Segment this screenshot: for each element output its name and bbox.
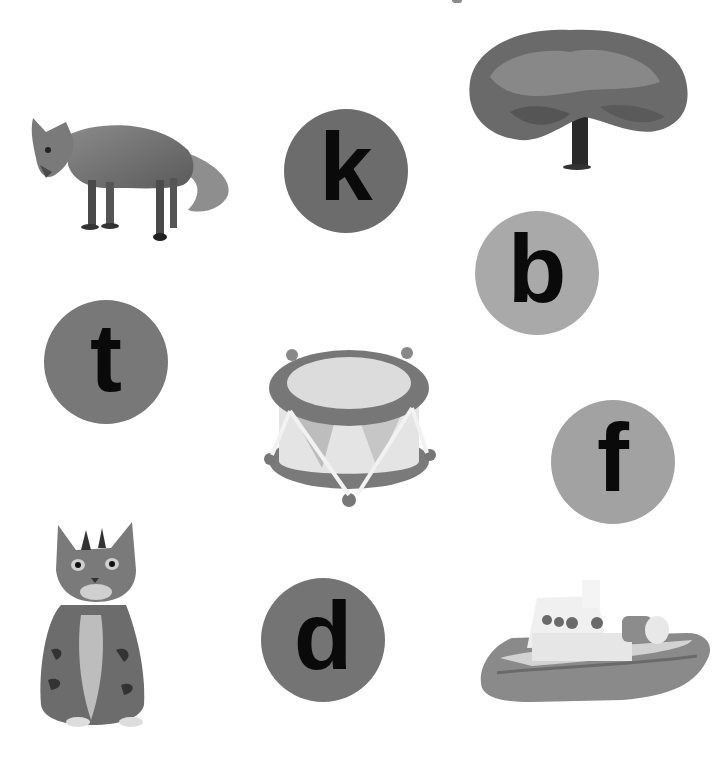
letter-d: d (294, 588, 353, 684)
letter-f: f (597, 410, 629, 506)
letter-circle-f[interactable]: f (551, 400, 675, 524)
boat-icon[interactable] (472, 578, 717, 708)
tree-icon[interactable] (460, 22, 695, 172)
letter-k: k (319, 119, 372, 215)
letter-circle-d[interactable]: d (261, 578, 385, 702)
letter-circle-b[interactable]: b (475, 211, 599, 335)
letter-t: t (90, 310, 122, 406)
letter-circle-k[interactable]: k (284, 109, 408, 233)
cropped-mark (452, 0, 462, 3)
fox-icon[interactable] (28, 110, 234, 245)
letter-b: b (508, 221, 567, 317)
letter-circle-t[interactable]: t (44, 300, 168, 424)
drum-icon[interactable] (262, 343, 437, 508)
cat-icon[interactable] (36, 520, 146, 728)
